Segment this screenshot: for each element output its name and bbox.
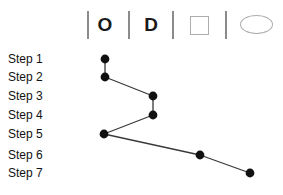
process-flow-chart: O D Step 1 Step 2 Step 3 Step 4 Step 5 S…	[0, 0, 283, 195]
data-point-marker[interactable]	[101, 73, 110, 82]
data-point-marker[interactable]	[246, 169, 255, 178]
data-point-marker[interactable]	[149, 92, 158, 101]
plot-area	[0, 0, 283, 195]
data-point-marker[interactable]	[100, 130, 109, 139]
flow-markers-group	[100, 55, 255, 178]
data-point-marker[interactable]	[101, 55, 110, 64]
flow-polyline	[104, 59, 250, 173]
flow-line-svg	[0, 0, 283, 195]
data-point-marker[interactable]	[149, 111, 158, 120]
data-point-marker[interactable]	[196, 151, 205, 160]
